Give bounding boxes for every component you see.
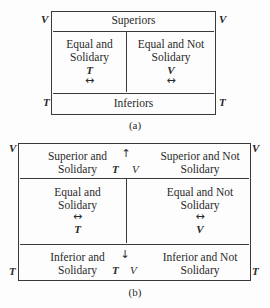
diagram-b-superior-solidary-line1: Superior and — [40, 150, 115, 162]
diagram-b-corner-top-right: V — [252, 142, 259, 154]
diagram-a-bottom-divider — [53, 93, 214, 94]
diagram-a-equal-not-solidary-line1: Equal and Not — [127, 38, 215, 50]
diagram-b-equal-not-solidary-line1: Equal and Not — [150, 186, 250, 198]
diagram-a-corner-bottom-right: T — [219, 96, 226, 108]
diagram-b-down-arrow-icon: ↓ — [119, 250, 131, 260]
diagram-a-superiors-label: Superiors — [53, 14, 214, 26]
diagram-b-equal-solidary-symbol: T — [40, 223, 115, 235]
diagram-a-equal-solidary-line2: Solidary — [53, 51, 126, 63]
diagram-b-up-arrow-icon: ↑ — [120, 149, 132, 159]
diagram-a-equal-solidary-line1: Equal and — [53, 38, 126, 50]
diagram-b-inferior-not-solidary-line1: Inferior and Not — [150, 251, 250, 263]
diagram-b-inferior-solidary-line2: Solidary — [50, 264, 105, 276]
diagram-a-corner-top-right: V — [219, 13, 226, 25]
diagram-b-inferior-not-solidary-line2: Solidary — [150, 264, 250, 276]
diagram-b-equal-not-solidary-arrow-icon: ↔ — [150, 212, 250, 222]
diagram-a-equal-solidary-arrow-icon: ↔ — [53, 76, 126, 86]
diagram-b-superior-not-solidary-line1: Superior and Not — [150, 150, 250, 162]
diagram-b-center-divider — [126, 179, 127, 243]
diagram-a-equal-not-solidary-arrow-icon: ↔ — [127, 76, 215, 86]
diagram-b-bottom-symbol-t: T — [112, 264, 119, 276]
diagram-b-top-symbol-v: V — [132, 163, 139, 175]
diagram-a-caption: (a) — [0, 119, 270, 131]
diagram-b-inferior-solidary-line1: Inferior and — [40, 251, 115, 263]
diagram-a-corner-top-left: V — [41, 13, 48, 25]
diagram-a-corner-bottom-left: T — [43, 96, 50, 108]
diagram-b-top-divider — [20, 178, 249, 179]
diagram-b-caption: (b) — [0, 286, 270, 298]
diagram-b-corner-bottom-right: T — [252, 265, 259, 277]
diagram-b-top-symbol-t: T — [112, 163, 119, 175]
diagram-a-equal-not-solidary-line2: Solidary — [127, 51, 215, 63]
diagram-b-corner-top-left: V — [9, 142, 16, 154]
diagram-b-equal-solidary-arrow-icon: ↔ — [40, 212, 115, 222]
diagram-a-top-divider — [53, 31, 214, 32]
diagram-b-corner-bottom-left: T — [9, 265, 16, 277]
diagram-b-bottom-divider — [20, 244, 249, 245]
diagram-a-inferiors-label: Inferiors — [53, 97, 214, 109]
diagram-b-bottom-symbol-v: V — [130, 264, 137, 276]
diagram-b-equal-solidary-line1: Equal and — [40, 186, 115, 198]
diagram-b-superior-solidary-line2: Solidary — [50, 163, 105, 175]
diagram-b-superior-not-solidary-line2: Solidary — [150, 163, 250, 175]
diagram-b-equal-not-solidary-symbol: V — [150, 223, 250, 235]
